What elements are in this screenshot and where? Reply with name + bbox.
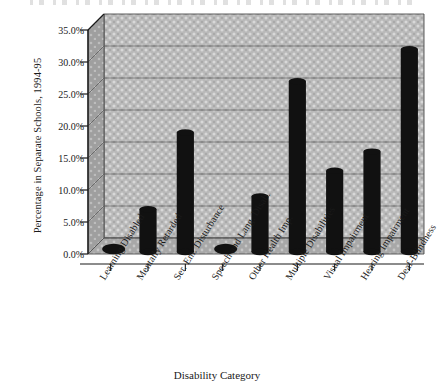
bar: [251, 193, 268, 255]
x-axis-ticks: [111, 264, 410, 271]
bar: [326, 168, 343, 256]
bar: [289, 78, 306, 255]
y-axis-ticks: [80, 30, 88, 254]
bar: [363, 148, 380, 255]
bar: [401, 46, 418, 255]
x-axis-title: Disability Category: [0, 369, 434, 381]
bar: [139, 206, 156, 255]
bar: [177, 129, 194, 255]
bar: [214, 244, 237, 254]
bar: [102, 244, 125, 254]
plot-left-wall: [88, 14, 104, 254]
